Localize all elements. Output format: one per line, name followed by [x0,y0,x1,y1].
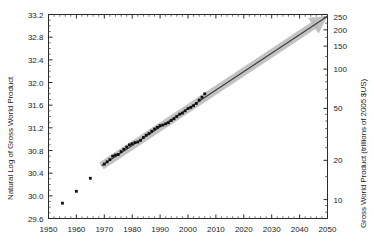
data-point [131,142,134,145]
data-point [75,190,78,193]
y-tick-label-left: 30.0 [28,192,44,201]
data-point [117,153,120,156]
x-tick-label: 2050 [319,225,337,234]
y-tick-label-left: 31.2 [28,124,44,133]
data-point [106,160,109,163]
y-tick-label-right: 50 [334,104,343,113]
x-tick-label: 2000 [179,225,197,234]
x-tick-label: 1980 [123,225,141,234]
y-tick-label-left: 32.8 [28,33,44,42]
data-point [203,92,206,95]
data-point [167,121,170,124]
y-axis-left-title: Natural Log of Gross World Product [6,76,15,200]
data-point [159,124,162,127]
y-tick-label-right: 250 [334,13,348,22]
x-tick-label: 2040 [291,225,309,234]
y-tick-label-right: 200 [334,26,348,35]
data-point [111,155,114,158]
data-point [181,112,184,115]
data-point [108,158,111,161]
data-point [170,119,173,122]
data-point [173,117,176,120]
y-tick-label-left: 31.6 [28,101,44,110]
chart-background [0,0,374,247]
data-point [89,177,92,180]
data-point [156,126,159,129]
data-point [148,132,151,135]
data-point [161,124,164,127]
y-axis-right-title: Gross World Product (trillions of 2005 $… [359,79,368,228]
data-point [195,102,198,105]
data-point [134,141,137,144]
x-tick-label: 2010 [207,225,225,234]
data-point [175,115,178,118]
y-tick-label-right: 10 [334,196,343,205]
data-point [136,141,139,144]
x-tick-label: 2030 [263,225,281,234]
data-point [198,99,201,102]
data-point [145,134,148,137]
gross-world-product-chart: 29.630.030.430.831.231.632.032.432.833.2… [0,0,374,247]
data-point [192,104,195,107]
x-tick-label: 1950 [40,225,58,234]
data-point [125,146,128,149]
y-tick-label-left: 33.2 [28,11,44,20]
data-point [114,154,117,157]
data-point [61,202,64,205]
x-tick-label: 1960 [68,225,86,234]
data-point [153,128,156,131]
y-tick-label-right: 150 [334,42,348,51]
y-tick-label-right: 100 [334,65,348,74]
data-point [201,96,204,99]
data-point [164,122,167,125]
data-point [150,130,153,133]
y-tick-label-left: 32.0 [28,79,44,88]
y-tick-label-left: 29.6 [28,215,44,224]
y-tick-label-left: 30.4 [28,169,44,178]
data-point [187,107,190,110]
data-point [128,143,131,146]
x-tick-label: 2020 [235,225,253,234]
data-point [142,136,145,139]
data-point [178,113,181,116]
data-point [122,148,125,151]
x-tick-label: 1990 [151,225,169,234]
data-point [139,139,142,142]
data-point [103,163,106,166]
x-tick-label: 1970 [95,225,113,234]
data-point [189,106,192,109]
data-point [184,109,187,112]
y-tick-label-left: 30.8 [28,147,44,156]
data-point [120,150,123,153]
y-tick-label-right: 20 [334,156,343,165]
y-tick-label-left: 32.4 [28,56,44,65]
